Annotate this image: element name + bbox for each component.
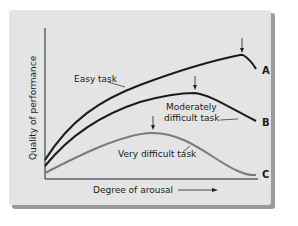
x-axis-arrow-icon	[178, 188, 218, 192]
label-difficult-task: difficult task	[164, 113, 220, 123]
series-label-c: C	[262, 169, 269, 180]
label-easy-task: Easy task	[74, 74, 118, 84]
yerkes-dodson-chart: Easy task Moderately difficult task Very…	[0, 0, 298, 226]
series-label-a: A	[262, 65, 270, 76]
curve-a-easy-task	[45, 55, 256, 160]
series-label-b: B	[262, 117, 270, 128]
peak-arrow-a	[240, 38, 244, 53]
label-very-difficult-task: Very difficult task	[118, 149, 197, 159]
peak-arrow-b	[193, 76, 197, 90]
y-axis-label: Quality of performance	[28, 55, 38, 160]
x-axis-label: Degree of arousal	[93, 185, 173, 195]
leader-moderate	[220, 119, 238, 120]
peak-arrow-c	[151, 116, 155, 130]
label-moderately: Moderately	[166, 102, 217, 112]
